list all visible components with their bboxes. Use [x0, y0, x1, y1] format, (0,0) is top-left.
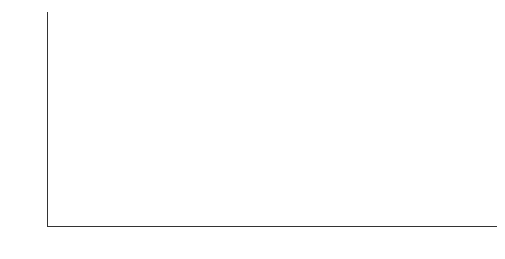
bar-chart	[0, 0, 505, 259]
y-axis	[47, 12, 48, 226]
x-axis	[47, 226, 497, 227]
